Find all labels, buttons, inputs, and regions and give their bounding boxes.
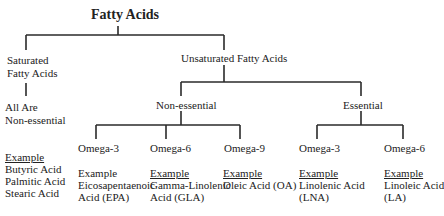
saturated-note-line2: Non-essential <box>5 114 65 127</box>
ne-omega9-example-1: Oleic Acid (OA) <box>223 179 296 192</box>
ne-omega6-example-2: Acid (GLA) <box>150 191 204 204</box>
unsaturated-label: Unsaturated Fatty Acids <box>181 52 287 65</box>
saturated-label-line1: Saturated <box>7 54 49 67</box>
ne-omega9-label: Omega-9 <box>224 142 265 155</box>
essential-label: Essential <box>343 99 383 112</box>
e-omega6-example-2: (LA) <box>384 191 406 204</box>
diagram-title: Fatty Acids <box>91 8 159 21</box>
ne-omega3-example-2: Acid (EPA) <box>78 191 129 204</box>
saturated-label-line2: Fatty Acids <box>7 67 57 80</box>
e-omega6-label: Omega-6 <box>384 142 425 155</box>
nonessential-label: Non-essential <box>156 99 216 112</box>
saturated-note-line1: All Are <box>5 101 38 114</box>
e-omega3-label: Omega-3 <box>299 142 340 155</box>
ne-omega6-label: Omega-6 <box>150 142 191 155</box>
saturated-example-3: Stearic Acid <box>5 187 59 200</box>
e-omega3-example-2: (LNA) <box>299 191 329 204</box>
ne-omega3-label: Omega-3 <box>78 142 119 155</box>
